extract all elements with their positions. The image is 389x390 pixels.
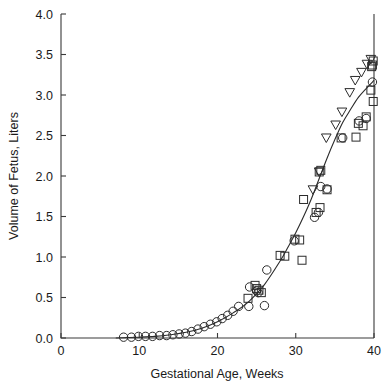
y-tick-labels: 0.00.51.01.52.02.53.03.54.0 <box>36 8 53 346</box>
y-axis-title: Volume of Fetus, Liters <box>7 112 21 240</box>
y-tick-label: 0.5 <box>36 291 53 305</box>
x-tick-label: 0 <box>58 344 65 358</box>
chart-figure: 010203040 0.00.51.01.52.02.53.03.54.0 Ge… <box>0 0 389 390</box>
y-tick-label: 2.5 <box>36 129 53 143</box>
y-tick-label: 0.0 <box>36 332 53 346</box>
x-tick-label: 10 <box>132 344 146 358</box>
x-axis-title: Gestational Age, Weeks <box>150 367 283 381</box>
x-tick-label: 40 <box>367 344 381 358</box>
y-tick-label: 4.0 <box>36 8 53 22</box>
y-tick-label: 1.0 <box>36 251 53 265</box>
y-tick-label: 2.0 <box>36 170 53 184</box>
x-tick-label: 20 <box>211 344 225 358</box>
y-tick-label: 3.0 <box>36 89 53 103</box>
y-tick-label: 3.5 <box>36 48 53 62</box>
x-tick-label: 30 <box>289 344 303 358</box>
y-tick-label: 1.5 <box>36 210 53 224</box>
scatter-plot: 010203040 0.00.51.01.52.02.53.03.54.0 Ge… <box>0 0 389 390</box>
